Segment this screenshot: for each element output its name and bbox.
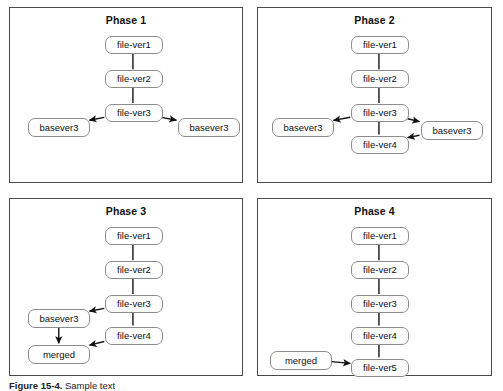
edge-p4-merged-to-p4-file-ver5 bbox=[331, 362, 350, 364]
node-p2-file-ver4: file-ver4 bbox=[351, 136, 409, 154]
node-p4-merged: merged bbox=[270, 351, 332, 370]
edge-p1-file-ver3-to-p1-basever3-r bbox=[162, 117, 177, 120]
panel-phase-3: Phase 3file-ver1file-ver2file-ver3file-v… bbox=[9, 198, 243, 376]
edge-p3-file-ver4-to-p3-merged bbox=[89, 342, 104, 346]
node-p1-file-ver1: file-ver1 bbox=[105, 36, 163, 54]
edge-p3-file-ver3-to-p3-basever3 bbox=[89, 308, 104, 311]
node-p3-file-ver1: file-ver1 bbox=[105, 227, 163, 245]
node-p2-file-ver1: file-ver1 bbox=[351, 36, 409, 54]
panel-title-phase-2: Phase 2 bbox=[258, 14, 491, 26]
panel-phase-4: Phase 4file-ver1file-ver2file-ver3file-v… bbox=[257, 198, 492, 376]
node-p2-basever3-l: basever3 bbox=[272, 118, 334, 137]
node-p4-file-ver2: file-ver2 bbox=[351, 261, 409, 279]
node-p4-file-ver5: file-ver5 bbox=[351, 359, 409, 377]
panel-title-phase-1: Phase 1 bbox=[10, 14, 242, 26]
edge-p1-file-ver3-to-p1-basever3-l bbox=[89, 117, 104, 120]
edges-phase-1 bbox=[10, 8, 242, 182]
panel-title-phase-3: Phase 3 bbox=[10, 205, 242, 217]
edges-phase-4 bbox=[258, 199, 491, 375]
node-p3-file-ver4: file-ver4 bbox=[105, 327, 163, 345]
node-p4-file-ver3: file-ver3 bbox=[351, 295, 409, 313]
node-p2-basever3-r: basever3 bbox=[421, 121, 483, 140]
edge-p2-file-ver3-to-p2-basever3-l bbox=[333, 117, 350, 120]
node-p2-file-ver3: file-ver3 bbox=[351, 104, 409, 122]
figure-caption: Figure 15-4. Sample text bbox=[9, 380, 115, 391]
edges-phase-2 bbox=[258, 8, 491, 182]
node-p1-file-ver2: file-ver2 bbox=[105, 70, 163, 88]
node-p3-file-ver2: file-ver2 bbox=[105, 261, 163, 279]
edge-p2-file-ver3-to-p2-basever3-r bbox=[408, 119, 420, 122]
node-p1-basever3-l: basever3 bbox=[28, 118, 90, 137]
caption-label: Figure 15-4. bbox=[9, 380, 62, 391]
node-p3-merged: merged bbox=[28, 345, 90, 364]
panel-phase-2: Phase 2file-ver1file-ver2file-ver3file-v… bbox=[257, 7, 492, 183]
edge-p2-basever3-r-to-p2-file-ver4 bbox=[408, 135, 420, 137]
panel-title-phase-4: Phase 4 bbox=[258, 205, 491, 217]
node-p1-basever3-r: basever3 bbox=[178, 118, 240, 137]
node-p2-file-ver2: file-ver2 bbox=[351, 70, 409, 88]
node-p4-file-ver1: file-ver1 bbox=[351, 227, 409, 245]
node-p3-basever3: basever3 bbox=[28, 309, 90, 328]
node-p4-file-ver4: file-ver4 bbox=[351, 327, 409, 345]
panel-phase-1: Phase 1file-ver1file-ver2file-ver3baseve… bbox=[9, 7, 243, 183]
caption-text: Sample text bbox=[62, 380, 115, 391]
node-p3-file-ver3: file-ver3 bbox=[105, 295, 163, 313]
node-p1-file-ver3: file-ver3 bbox=[105, 104, 163, 122]
